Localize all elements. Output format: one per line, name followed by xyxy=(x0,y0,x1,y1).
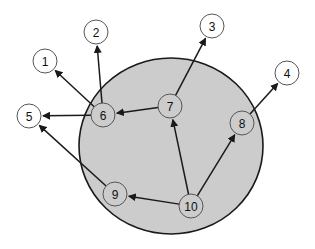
node-label: 9 xyxy=(112,188,119,202)
edge-8-to-4 xyxy=(250,83,278,114)
node-label: 4 xyxy=(284,67,291,81)
graph-diagram: 12345678910 xyxy=(0,0,315,249)
node-4: 4 xyxy=(275,61,299,85)
node-label: 8 xyxy=(239,117,246,131)
node-3: 3 xyxy=(200,14,224,38)
node-label: 6 xyxy=(100,109,107,123)
node-label: 10 xyxy=(184,200,198,214)
node-label: 1 xyxy=(42,55,49,69)
node-label: 2 xyxy=(93,26,100,40)
node-1: 1 xyxy=(33,49,57,73)
node-label: 7 xyxy=(167,100,174,114)
node-2: 2 xyxy=(84,20,108,44)
node-8: 8 xyxy=(230,111,254,135)
node-9: 9 xyxy=(103,182,127,206)
node-label: 3 xyxy=(209,20,216,34)
node-5: 5 xyxy=(17,104,41,128)
node-7: 7 xyxy=(158,94,182,118)
node-label: 5 xyxy=(26,110,33,124)
edge-6-to-1 xyxy=(55,71,94,107)
node-6: 6 xyxy=(91,103,115,127)
community-region xyxy=(79,58,263,234)
edge-6-to-5 xyxy=(43,115,91,116)
node-10: 10 xyxy=(179,194,203,218)
